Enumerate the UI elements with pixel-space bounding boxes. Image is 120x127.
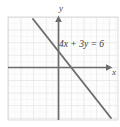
graph-canvas: y x 4x + 3y = 6 (0, 0, 120, 127)
coordinate-plane-figure: y x 4x + 3y = 6 (0, 0, 120, 127)
equation-label: 4x + 3y = 6 (59, 39, 104, 49)
x-axis-label: x (111, 67, 116, 77)
y-axis-label: y (58, 3, 63, 13)
